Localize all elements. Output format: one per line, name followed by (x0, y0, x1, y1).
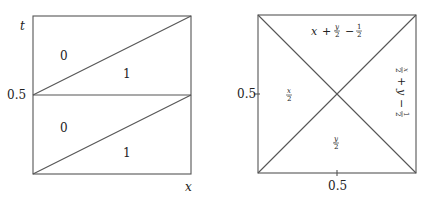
svg-text:+: + (395, 77, 408, 86)
svg-text:1: 1 (357, 23, 361, 31)
svg-text:2: 2 (287, 95, 291, 103)
region-bottom-formula: y 2 (333, 135, 339, 151)
svg-text:x: x (402, 68, 410, 72)
y-tick-0.5: 0.5 (237, 87, 256, 101)
svg-text:1: 1 (402, 112, 410, 116)
region-top-formula: x + y 2 − 1 2 (311, 23, 362, 39)
region-lower-right-label: 1 (123, 146, 131, 160)
right-panel: 0.5 0.5 x + y 2 − 1 2 x 2 y 2 x (237, 15, 416, 193)
svg-text:+: + (322, 25, 331, 38)
t-axis-label: t (20, 19, 25, 33)
region-upper-left-label: 0 (60, 49, 68, 63)
svg-text:y: y (395, 88, 408, 96)
x-tick-0.5: 0.5 (328, 179, 347, 193)
region-lower-left-label: 0 (60, 121, 68, 135)
svg-text:−: − (345, 25, 354, 38)
svg-text:2: 2 (394, 112, 402, 116)
svg-text:2: 2 (334, 143, 338, 151)
diagram-canvas: t x 0.5 0 1 0 1 0.5 0.5 x + y 2 − 1 2 (0, 0, 428, 202)
left-lower-diagonal (33, 95, 191, 174)
region-right-formula: x 2 + y − 1 2 (394, 67, 410, 117)
left-panel: t x 0.5 0 1 0 1 (7, 16, 192, 194)
svg-text:2: 2 (335, 31, 339, 39)
t-tick-0.5: 0.5 (7, 88, 26, 102)
svg-text:x: x (287, 87, 291, 95)
svg-text:2: 2 (394, 68, 402, 72)
svg-text:−: − (395, 99, 408, 108)
svg-text:x: x (311, 25, 318, 38)
region-left-formula: x 2 (286, 87, 292, 103)
x-axis-label: x (185, 180, 192, 194)
svg-text:2: 2 (357, 31, 361, 39)
left-upper-diagonal (33, 16, 191, 95)
region-upper-right-label: 1 (123, 67, 131, 81)
svg-text:y: y (334, 23, 340, 31)
svg-text:y: y (333, 135, 339, 143)
